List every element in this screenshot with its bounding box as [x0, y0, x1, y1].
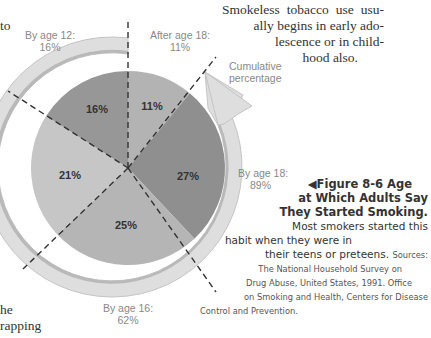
- figure-caption: ◀Figure 8-6 Age at Which Adults Say They…: [200, 177, 428, 318]
- caption-text-line-3: their teens or preteens.: [265, 248, 389, 260]
- source-line-1: The National Household Survey on: [200, 262, 428, 276]
- slice-label-21: 21%: [59, 169, 81, 181]
- slice-label-27: 27%: [177, 170, 199, 182]
- caption-title-line-2: at Which Adults Say: [200, 191, 428, 205]
- caption-text-line-1: Most smokers started this: [200, 219, 428, 233]
- caption-text: Most smokers started this habit when the…: [200, 219, 428, 262]
- source-line-4: Control and Prevention.: [200, 304, 428, 318]
- slice-label-11: 11%: [141, 100, 163, 112]
- label-by-age-12-title: By age 12:: [10, 29, 90, 41]
- label-cumulative-line2: percentage: [229, 72, 282, 84]
- label-by-age-16: By age 16: 62%: [88, 302, 168, 326]
- caption-title-line-1: Figure 8-6 Age: [317, 177, 412, 191]
- source-line-2: Drug Abuse, United States, 1991. Office: [200, 276, 428, 290]
- slice-label-16: 16%: [86, 103, 108, 115]
- label-after-age-18: After age 18: 11%: [140, 29, 220, 53]
- label-by-age-12-value: 16%: [10, 41, 90, 53]
- caption-sources-label: Sources:: [392, 250, 428, 260]
- label-by-age-12: By age 12: 16%: [10, 29, 90, 53]
- body-line: hood also.: [222, 50, 384, 66]
- caption-text-line-3-wrap: their teens or preteens. Sources:: [200, 247, 428, 262]
- body-line: Smokeless tobacco use usu-: [222, 2, 384, 18]
- label-after-age-18-title: After age 18:: [140, 29, 220, 41]
- caption-text-line-2: habit when they were in: [200, 233, 428, 247]
- source-line-3: on Smoking and Health, Centers for Disea…: [200, 290, 428, 304]
- caption-sources: The National Household Survey on Drug Ab…: [200, 262, 428, 318]
- label-by-age-16-value: 62%: [88, 314, 168, 326]
- caption-title: ◀Figure 8-6 Age at Which Adults Say They…: [200, 177, 428, 219]
- caption-title-line-3: They Started Smoking.: [200, 205, 428, 219]
- slice-label-25: 25%: [115, 219, 137, 231]
- label-after-age-18-value: 11%: [140, 41, 220, 53]
- body-line: ally begins in early ado-: [222, 18, 384, 34]
- caption-arrow-icon: ◀: [308, 177, 317, 191]
- body-line: lescence or in child-: [222, 34, 384, 50]
- caption-title-line: ◀Figure 8-6 Age: [200, 177, 428, 191]
- body-paragraph: Smokeless tobacco use usu- ally begins i…: [222, 2, 384, 66]
- label-by-age-16-title: By age 16:: [88, 302, 168, 314]
